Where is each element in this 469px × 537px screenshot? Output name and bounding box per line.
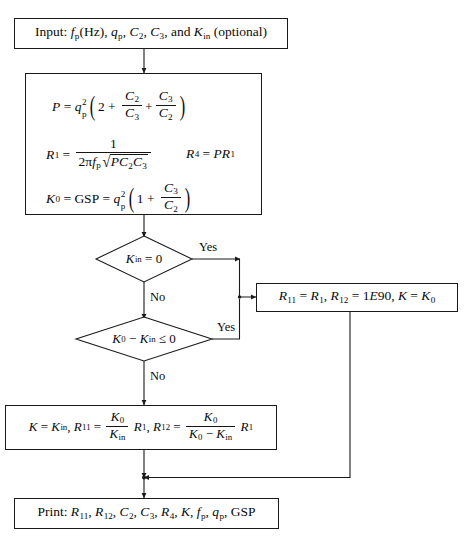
decision2-yes-label: Yes (217, 320, 235, 335)
junction-spine-merge (142, 476, 146, 480)
decision-kin-zero-shape (96, 236, 192, 282)
formula-K0: K0 = GSP = q2p (1 + C3C2) (46, 182, 192, 216)
assign-right-box: R11 = R1, R12 = 1E90, K = K0 (256, 283, 458, 312)
decision2-no-label: No (150, 369, 165, 384)
print-box: Print: R11, R12, C2, C3, R4, K, fp, qp, … (14, 498, 279, 529)
input-box: Input: fp(Hz), qp, C2, C3, and Kin (opti… (14, 18, 288, 49)
assign-bottom-box: K = Kin, R11 = K0Kin R1, R12 = K0K0 − Ki… (5, 405, 277, 450)
junction-yes-merge (238, 295, 241, 298)
decision1-yes-label: Yes (199, 240, 217, 255)
edge-decision1-yes-drop (240, 259, 257, 297)
formula-P: P = q2p (2 + C2C3+C3C2) (52, 90, 186, 124)
clipped-caption-fragment (0, 0, 469, 9)
print-box-text: Print: R11, R12, C2, C3, R4, K, fp, qp, … (37, 504, 255, 522)
formula-R1: R1 = 12πfp√PC2C3 (46, 138, 153, 172)
assign-bottom-text: K = Kin, R11 = K0Kin R1, R12 = K0K0 − Ki… (29, 411, 253, 444)
decision-k0-kin-shape (76, 317, 212, 361)
print-label: Print: (37, 504, 67, 519)
formula-R4: R4 = PR1 (186, 146, 235, 162)
input-box-text: Input: fp(Hz), qp, C2, C3, and Kin (opti… (35, 24, 267, 42)
input-label: Input: (35, 24, 67, 39)
decision1-no-label: No (150, 290, 165, 305)
assign-right-text: R11 = R1, R12 = 1E90, K = K0 (279, 288, 436, 306)
